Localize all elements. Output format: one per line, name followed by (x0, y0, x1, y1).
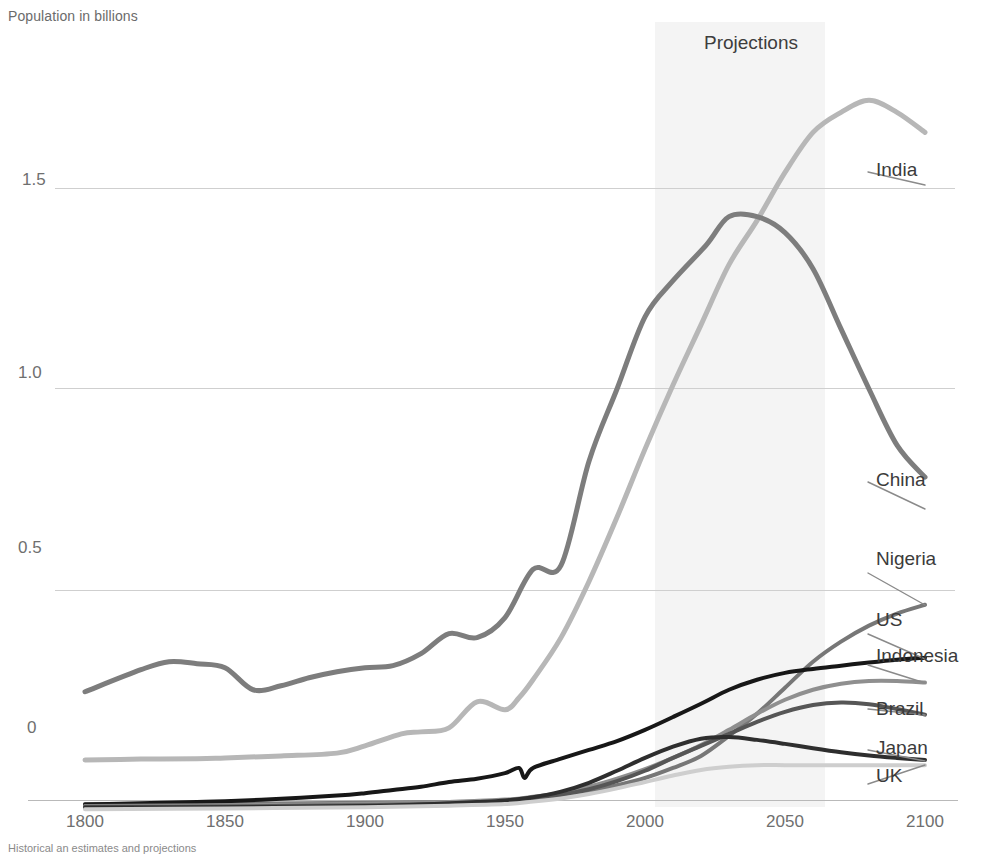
series-label-brazil: Brazil (876, 698, 924, 720)
series-label-indonesia: Indonesia (876, 645, 958, 667)
series-label-india: India (876, 159, 917, 181)
series-label-japan: Japan (876, 737, 928, 759)
series-label-nigeria: Nigeria (876, 548, 936, 570)
leader-nigeria (868, 573, 925, 605)
series-label-china: China (876, 469, 926, 491)
chart-footnote: Historical an estimates and projections (8, 842, 196, 854)
leader-indonesia (868, 665, 925, 683)
series-label-uk: UK (876, 765, 902, 787)
series-label-us: US (876, 609, 902, 631)
